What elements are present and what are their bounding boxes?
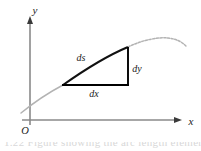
- y-axis-label: y: [32, 4, 38, 16]
- caption-strip: 1.22 Figure showing the arc length eleme…: [0, 142, 201, 151]
- curve-highlighted-arc: [63, 47, 128, 85]
- dy-label: dy: [132, 63, 142, 74]
- curve-faded-left-segment: [21, 85, 63, 113]
- caption-text: 1.22 Figure showing the arc length eleme…: [4, 142, 201, 148]
- x-axis-arrowhead: [174, 117, 182, 123]
- y-axis-arrowhead: [27, 16, 33, 24]
- origin-label: O: [21, 125, 29, 136]
- figure-container: y x O ds dy dx 1.22 Figure showing the a…: [0, 0, 201, 151]
- arc-length-diagram: y x O ds dy dx: [0, 0, 201, 151]
- x-axis-label: x: [188, 115, 194, 127]
- ds-label: ds: [77, 52, 86, 63]
- curve-faded-right-segment: [128, 38, 186, 47]
- dx-label: dx: [89, 88, 99, 99]
